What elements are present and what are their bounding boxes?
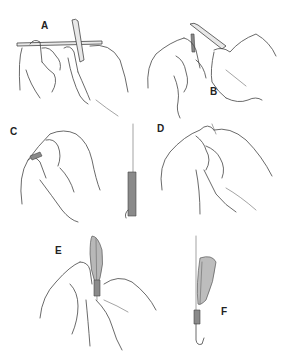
illustration-canvas — [0, 0, 291, 356]
step-c-drawing — [21, 124, 136, 222]
step-label-f: F — [221, 306, 227, 317]
step-label-d: D — [157, 123, 164, 134]
step-d-drawing — [161, 124, 272, 214]
step-b-drawing — [148, 23, 276, 118]
step-label-e: E — [55, 245, 62, 256]
step-label-a: A — [41, 20, 48, 31]
step-label-c: C — [10, 126, 17, 137]
figure: A B C D E F — [0, 0, 291, 356]
step-label-b: B — [210, 86, 217, 97]
step-f-drawing — [194, 236, 216, 345]
step-a-drawing — [17, 19, 128, 116]
